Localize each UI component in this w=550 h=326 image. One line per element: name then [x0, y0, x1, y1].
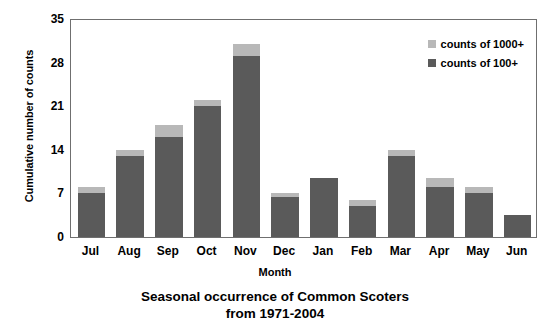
- x-axis-tick: Apr: [420, 244, 459, 258]
- x-axis-tick: Mar: [381, 244, 420, 258]
- bar-jan[interactable]: [310, 178, 338, 237]
- bar-jun[interactable]: [504, 215, 532, 237]
- bar-segment-counts-100plus: [310, 178, 338, 237]
- bar-segment-counts-100plus: [78, 193, 106, 237]
- chart-title: Seasonal occurrence of Common Scoters fr…: [0, 288, 550, 322]
- bar-jul[interactable]: [78, 187, 106, 237]
- bar-slot: [111, 19, 150, 237]
- legend-item: counts of 100+: [428, 57, 524, 69]
- bar-segment-counts-100plus: [426, 187, 454, 237]
- y-axis-tick: 7: [28, 187, 64, 199]
- bar-segment-counts-1000plus: [233, 44, 261, 56]
- legend-swatch-icon: [428, 59, 436, 67]
- y-axis-tick: 0: [28, 231, 64, 243]
- y-axis-tick: 28: [28, 57, 64, 69]
- bar-slot: [150, 19, 189, 237]
- x-axis-tick: Nov: [226, 244, 265, 258]
- y-axis-tick-labels: 3528211470: [28, 12, 64, 244]
- bar-slot: [382, 19, 421, 237]
- x-axis-tick: Jan: [304, 244, 343, 258]
- bar-apr[interactable]: [426, 178, 454, 237]
- bar-slot: [72, 19, 111, 237]
- chart-legend: counts of 1000+counts of 100+: [428, 38, 524, 76]
- bar-slot: [343, 19, 382, 237]
- x-axis-tick: Dec: [265, 244, 304, 258]
- chart-title-line2: from 1971-2004: [0, 305, 550, 322]
- x-axis-tick: Jul: [71, 244, 110, 258]
- x-axis-tick: Aug: [110, 244, 149, 258]
- bar-segment-counts-1000plus: [155, 125, 183, 137]
- x-axis-title: Month: [0, 266, 550, 278]
- bar-segment-counts-100plus: [388, 156, 416, 237]
- bar-segment-counts-100plus: [116, 156, 144, 237]
- bar-slot: [266, 19, 305, 237]
- bar-segment-counts-100plus: [465, 193, 493, 237]
- bar-segment-counts-100plus: [155, 137, 183, 237]
- bar-slot: [188, 19, 227, 237]
- bar-oct[interactable]: [194, 100, 222, 237]
- legend-label: counts of 100+: [441, 57, 518, 69]
- bar-aug[interactable]: [116, 150, 144, 237]
- y-axis-tick: 14: [28, 144, 64, 156]
- bar-nov[interactable]: [233, 44, 261, 237]
- x-axis-tick-labels: JulAugSepOctNovDecJanFebMarAprMayJun: [71, 244, 536, 258]
- y-axis-tick: 21: [28, 100, 64, 112]
- x-axis-tick: May: [459, 244, 498, 258]
- legend-swatch-icon: [428, 40, 436, 48]
- legend-label: counts of 1000+: [441, 38, 524, 50]
- chart-figure: Cumulative number of counts 3528211470 c…: [0, 0, 550, 326]
- bar-segment-counts-100plus: [349, 206, 377, 237]
- bar-may[interactable]: [465, 187, 493, 237]
- x-axis-tick: Oct: [187, 244, 226, 258]
- bar-segment-counts-100plus: [504, 215, 532, 237]
- chart-title-line1: Seasonal occurrence of Common Scoters: [0, 288, 550, 305]
- bar-sep[interactable]: [155, 125, 183, 237]
- legend-item: counts of 1000+: [428, 38, 524, 50]
- bar-segment-counts-100plus: [271, 197, 299, 237]
- y-axis-tick: 35: [28, 13, 64, 25]
- x-axis-tick: Jun: [497, 244, 536, 258]
- bar-slot: [227, 19, 266, 237]
- bar-segment-counts-100plus: [233, 56, 261, 237]
- x-axis-tick: Feb: [342, 244, 381, 258]
- bar-slot: [305, 19, 344, 237]
- bar-segment-counts-1000plus: [426, 178, 454, 187]
- bar-mar[interactable]: [388, 150, 416, 237]
- plot-area: counts of 1000+counts of 100+: [70, 19, 537, 238]
- bar-feb[interactable]: [349, 200, 377, 237]
- bar-dec[interactable]: [271, 193, 299, 237]
- x-axis-tick: Sep: [149, 244, 188, 258]
- bar-segment-counts-100plus: [194, 106, 222, 237]
